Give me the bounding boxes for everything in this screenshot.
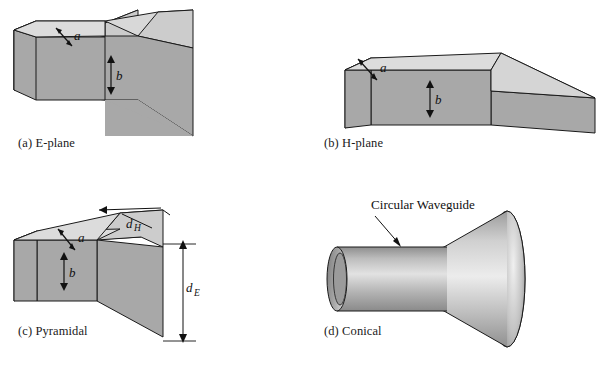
pyramidal-waveguide-side-face [37, 240, 97, 301]
dimension-a-label: a [78, 230, 85, 245]
dimension-b-label: b [435, 92, 442, 107]
dimension-b-label: b [116, 68, 123, 83]
panel-conical-horn: Circular Waveguide (d) Conical [305, 182, 610, 364]
dimension-a-label: a [74, 28, 81, 43]
e-plane-top-face-overlay [14, 21, 105, 37]
svg-text:d: d [126, 216, 133, 231]
h-plane-waveguide-side-left [345, 70, 371, 128]
pyramidal-waveguide-side-left [14, 240, 37, 301]
dimension-b-label: b [69, 265, 76, 280]
h-plane-waveguide-side-face [371, 70, 491, 125]
h-plane-flare-top-overlay [491, 53, 595, 98]
panel-h-plane-horn: a b (b) H-plane [305, 0, 610, 182]
svg-text:E: E [193, 288, 200, 298]
pyramidal-flare-body-face [97, 240, 163, 337]
conical-flare-aperture-arc [507, 211, 525, 347]
h-plane-horn-drawing: a b [305, 0, 610, 182]
horn-antenna-figure: a b (a) E-plane [0, 0, 610, 365]
caption-conical: (d) Conical [324, 324, 382, 339]
waveguide-annotation-arrow [375, 216, 401, 247]
dimension-de-label: d E [186, 280, 200, 298]
conical-waveguide-bore [334, 253, 347, 305]
e-plane-horn-drawing: a b [0, 0, 305, 182]
svg-text:H: H [133, 223, 142, 233]
dimension-a-label: a [380, 60, 387, 75]
e-plane-waveguide-side-outline [14, 30, 36, 100]
caption-pyramidal: (c) Pyramidal [18, 324, 88, 339]
conical-waveguide-tube [337, 247, 447, 311]
panel-e-plane-horn: a b (a) E-plane [0, 0, 305, 182]
waveguide-annotation-label: Circular Waveguide [371, 197, 475, 212]
caption-h-plane: (b) H-plane [324, 136, 383, 151]
panel-pyramidal-horn: a b d H [0, 182, 305, 364]
caption-e-plane: (a) E-plane [18, 136, 75, 151]
e-plane-waveguide-side-rect [36, 37, 105, 100]
svg-text:d: d [186, 280, 193, 295]
conical-flare-body [444, 211, 507, 347]
h-plane-top-face-overlay [345, 53, 501, 70]
